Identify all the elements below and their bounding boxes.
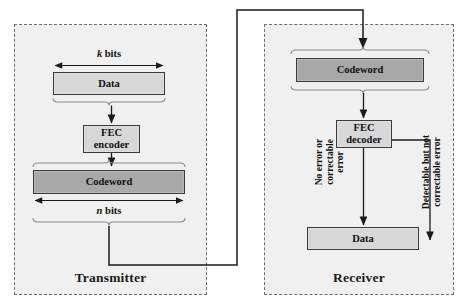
k-bits-unit: bits (102, 48, 121, 59)
fec-encoder-block: FEC encoder (83, 125, 140, 153)
fec-decoder-line2: decoder (346, 134, 382, 145)
no-error-branch-label: No error or correctable error (314, 117, 328, 207)
receiver-codeword-block: Codeword (296, 58, 424, 82)
n-bits-label: n bits (33, 205, 185, 216)
n-bits-unit: bits (102, 205, 121, 216)
fec-decoder-line1: FEC (353, 122, 374, 133)
receiver-title: Receiver (265, 270, 453, 286)
fec-decoder-block: FEC decoder (336, 120, 392, 148)
fec-decoder-label: FEC decoder (346, 122, 382, 146)
fec-encoder-line1: FEC (101, 127, 122, 138)
detectable-branch-label: Detectable but not correctable error (421, 118, 435, 226)
transmitter-codeword-block: Codeword (33, 170, 185, 194)
transmitter-panel: Transmitter (14, 24, 207, 295)
transmitter-data-block: Data (53, 72, 165, 95)
fec-encoder-line2: encoder (94, 139, 130, 150)
receiver-data-block: Data (307, 227, 419, 250)
transmitter-title: Transmitter (15, 270, 206, 286)
fec-block-diagram: Transmitter k bits n bits Data FEC encod… (0, 0, 469, 305)
k-bits-label: k bits (53, 48, 165, 59)
fec-encoder-label: FEC encoder (94, 127, 130, 151)
